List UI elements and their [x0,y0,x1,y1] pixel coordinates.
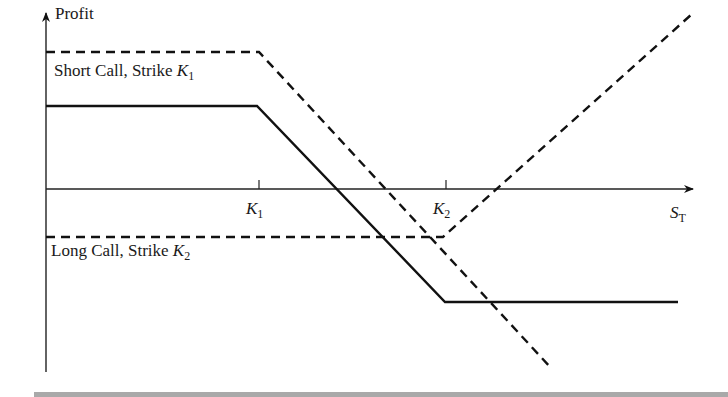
tick-label-k2: K2 [433,199,450,219]
tick-k2-sub: 2 [444,207,450,221]
short-call-label-sub: 1 [188,69,194,83]
tick-k1-sub: 1 [257,207,263,221]
bear-spread-line [46,106,678,302]
long-call-label: Long Call, Strike K2 [51,241,190,261]
payoff-plot [0,0,728,397]
x-axis-label-sub: T [679,211,686,225]
short-call-k1-line [46,52,552,369]
long-call-label-text: Long Call, Strike [51,241,173,260]
tick-k2-var: K [433,199,444,218]
tick-k1-var: K [246,199,257,218]
y-axis-label: Profit [55,4,94,24]
short-call-label-text: Short Call, Strike [54,61,177,80]
long-call-label-sub: 2 [184,249,190,263]
bear-spread-diagram: Profit Short Call, Strike K1 Long Call, … [0,0,728,397]
x-axis-label: ST [670,203,686,223]
tick-label-k1: K1 [246,199,263,219]
short-call-label-var: K [177,61,188,80]
short-call-label: Short Call, Strike K1 [54,61,194,81]
footer-bar [34,392,728,397]
x-axis-label-var: S [670,203,679,222]
long-call-label-var: K [173,241,184,260]
long-call-k2-line [46,14,692,237]
